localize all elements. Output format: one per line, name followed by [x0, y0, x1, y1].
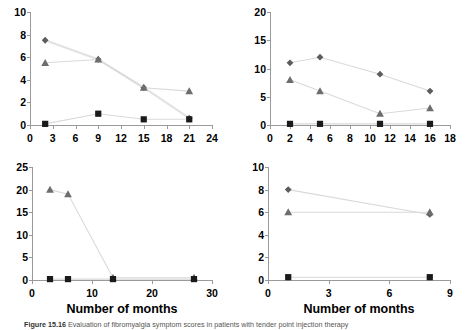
x-tick-mark — [152, 280, 153, 284]
x-axis-tick-label: 18 — [444, 132, 456, 144]
y-axis-tick-label: 4 — [2, 74, 26, 86]
data-point-triangle — [64, 190, 72, 197]
y-tick-mark — [267, 12, 271, 13]
x-axis-tick-label: 6 — [327, 132, 333, 144]
x-tick-mark — [92, 280, 93, 284]
data-point-triangle — [185, 87, 193, 94]
y-tick-mark — [265, 167, 269, 168]
data-point-triangle — [140, 84, 148, 91]
x-tick-mark — [30, 125, 31, 129]
y-axis-line — [30, 12, 31, 125]
chart-panel-bottom-right: 02468100369Number of months — [238, 155, 476, 315]
data-point-diamond — [426, 211, 433, 218]
plot-area — [238, 155, 476, 315]
x-axis-tick-label: 18 — [161, 132, 173, 144]
x-axis-tick-label: 4 — [307, 132, 313, 144]
y-axis-tick-label: 0 — [2, 119, 26, 131]
series-line-triangle — [45, 60, 189, 92]
x-axis-line — [270, 125, 450, 126]
y-axis-tick-label: 5 — [4, 251, 28, 263]
data-point-diamond — [317, 54, 324, 61]
caption-text: Evaluation of fibromyalgia symptom score… — [68, 320, 348, 329]
x-tick-mark — [121, 125, 122, 129]
y-axis-tick-label: 2 — [2, 96, 26, 108]
x-tick-mark — [390, 125, 391, 129]
y-axis-tick-label: 8 — [2, 29, 26, 41]
y-axis-tick-label: 10 — [4, 229, 28, 241]
x-axis-tick-label: 12 — [384, 132, 396, 144]
x-tick-mark — [450, 125, 451, 129]
series-line-triangle — [50, 190, 194, 278]
x-tick-mark — [144, 125, 145, 129]
data-point-square — [377, 121, 383, 127]
y-axis-tick-label: 15 — [242, 34, 266, 46]
y-axis-line — [32, 167, 33, 280]
x-axis-tick-label: 6 — [386, 287, 392, 299]
series-line-triangle — [290, 80, 430, 114]
y-tick-mark — [267, 40, 271, 41]
y-axis-tick-label: 20 — [242, 6, 266, 18]
x-tick-mark — [450, 280, 451, 284]
x-axis-tick-label: 0 — [267, 132, 273, 144]
data-point-triangle — [46, 186, 54, 193]
x-axis-label: Number of months — [303, 302, 414, 316]
x-axis-tick-label: 10 — [86, 287, 98, 299]
x-axis-tick-label: 0 — [27, 132, 33, 144]
data-point-triangle — [316, 87, 324, 94]
series-line-diamond — [288, 190, 430, 215]
x-tick-mark — [98, 125, 99, 129]
x-tick-mark — [410, 125, 411, 129]
data-point-diamond — [377, 71, 384, 78]
y-axis-tick-label: 2 — [240, 251, 264, 263]
x-axis-tick-label: 24 — [206, 132, 218, 144]
y-axis-tick-label: 20 — [4, 184, 28, 196]
x-tick-mark — [268, 280, 269, 284]
x-tick-mark — [53, 125, 54, 129]
y-axis-tick-label: 4 — [240, 229, 264, 241]
y-tick-mark — [29, 235, 33, 236]
data-point-triangle — [426, 104, 434, 111]
x-axis-tick-label: 12 — [115, 132, 127, 144]
x-axis-tick-label: 2 — [287, 132, 293, 144]
data-point-square — [95, 111, 101, 117]
y-axis-tick-label: 10 — [2, 6, 26, 18]
data-point-square — [141, 116, 147, 122]
y-tick-mark — [265, 190, 269, 191]
x-tick-mark — [167, 125, 168, 129]
x-axis-tick-label: 0 — [29, 287, 35, 299]
data-point-diamond — [140, 84, 147, 91]
data-point-triangle — [426, 208, 434, 215]
y-tick-mark — [29, 257, 33, 258]
x-axis-tick-label: 6 — [73, 132, 79, 144]
x-tick-mark — [310, 125, 311, 129]
caption-number: Figure 15.16 — [24, 320, 66, 329]
y-tick-mark — [267, 97, 271, 98]
data-point-triangle — [94, 56, 102, 63]
x-axis-tick-label: 8 — [347, 132, 353, 144]
y-axis-tick-label: 15 — [4, 206, 28, 218]
y-axis-tick-label: 8 — [240, 184, 264, 196]
x-tick-mark — [212, 280, 213, 284]
x-tick-mark — [329, 280, 330, 284]
x-axis-tick-label: 10 — [364, 132, 376, 144]
y-tick-mark — [27, 102, 31, 103]
x-tick-mark — [350, 125, 351, 129]
x-tick-mark — [290, 125, 291, 129]
y-axis-tick-label: 25 — [4, 161, 28, 173]
y-tick-mark — [29, 190, 33, 191]
data-point-triangle — [284, 208, 292, 215]
data-point-square — [42, 121, 48, 127]
x-axis-tick-label: 21 — [183, 132, 195, 144]
data-point-diamond — [186, 115, 193, 122]
y-tick-mark — [265, 235, 269, 236]
x-axis-tick-label: 9 — [447, 287, 453, 299]
x-axis-tick-label: 14 — [404, 132, 416, 144]
x-axis-tick-label: 20 — [146, 287, 158, 299]
x-axis-tick-label: 30 — [206, 287, 218, 299]
x-tick-mark — [370, 125, 371, 129]
data-point-square — [186, 116, 192, 122]
y-tick-mark — [265, 257, 269, 258]
x-axis-tick-label: 9 — [95, 132, 101, 144]
x-axis-label: Number of months — [66, 302, 177, 316]
x-tick-mark — [189, 125, 190, 129]
